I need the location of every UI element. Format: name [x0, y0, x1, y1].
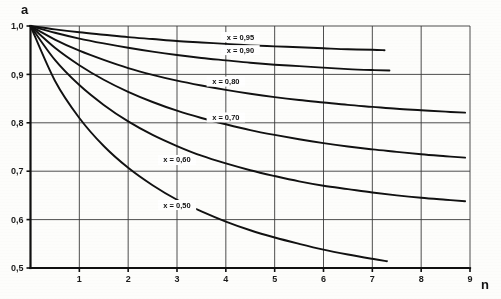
- curve-0-95: [31, 26, 385, 50]
- x-tick-label: 9: [467, 274, 472, 284]
- y-axis-label: a: [21, 2, 29, 17]
- y-tick-label: 0,7: [11, 166, 24, 176]
- curve-label: x = 0,95: [227, 33, 254, 42]
- x-axis-label: n: [481, 277, 489, 292]
- chart-figure: 0,50,60,70,80,91,0 123456789 x = 0,95x =…: [0, 0, 501, 299]
- chart-canvas: 0,50,60,70,80,91,0 123456789 x = 0,95x =…: [0, 0, 501, 299]
- curve-label: x = 0,90: [227, 46, 254, 55]
- curve-0-5: [31, 26, 387, 261]
- x-tick-label: 6: [321, 274, 326, 284]
- y-axis-tick-labels: 0,50,60,70,80,91,0: [11, 21, 24, 273]
- curve-label: x = 0,70: [212, 113, 239, 122]
- curve-label: x = 0,60: [163, 155, 190, 164]
- curve-label: x = 0,50: [163, 201, 190, 210]
- y-tick-label: 0,5: [11, 263, 24, 273]
- y-tick-label: 0,8: [11, 118, 24, 128]
- y-tick-label: 0,9: [11, 70, 24, 80]
- curve-label: x = 0,80: [212, 77, 239, 86]
- x-tick-label: 8: [419, 274, 424, 284]
- x-tick-label: 2: [126, 274, 131, 284]
- data-curves: [31, 26, 466, 261]
- x-tick-label: 5: [272, 274, 277, 284]
- x-tick-label: 1: [77, 274, 82, 284]
- y-tick-label: 0,6: [11, 215, 24, 225]
- x-axis-tick-labels: 123456789: [77, 274, 473, 284]
- x-tick-label: 4: [223, 274, 228, 284]
- x-tick-label: 3: [174, 274, 179, 284]
- y-tick-label: 1,0: [11, 21, 24, 31]
- x-tick-label: 7: [370, 274, 375, 284]
